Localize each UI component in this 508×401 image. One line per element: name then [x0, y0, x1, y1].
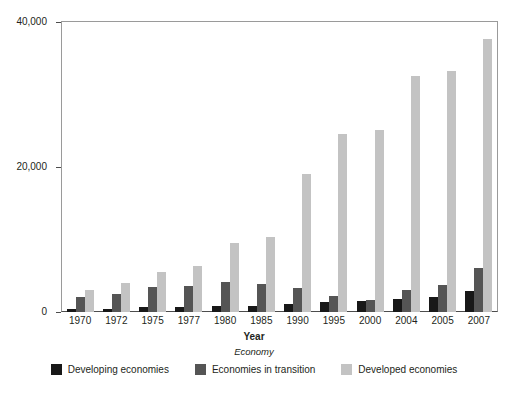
- bar-transition: [438, 285, 447, 312]
- x-axis-tick-label: 1972: [98, 315, 134, 329]
- bar-developing: [465, 291, 474, 312]
- bar-group: [425, 22, 461, 312]
- x-axis-tick-label: 1990: [280, 315, 316, 329]
- bar-transition: [293, 288, 302, 312]
- bar-developed: [302, 174, 311, 312]
- y-axis-tick-mark: [56, 167, 61, 168]
- bar-developed: [121, 283, 130, 312]
- bar-developed: [85, 290, 94, 312]
- legend-item-label: Developed economies: [358, 364, 457, 375]
- bar-transition: [474, 268, 483, 312]
- bar-developing: [67, 309, 76, 312]
- x-axis-tick-label: 1970: [62, 315, 98, 329]
- y-axis-tick-label: 0: [41, 307, 47, 317]
- bar-transition: [402, 290, 411, 312]
- legend: Developing economiesEconomies in transit…: [0, 364, 508, 375]
- legend-item-label: Economies in transition: [212, 364, 315, 375]
- x-axis-tick-label: 1975: [135, 315, 171, 329]
- x-axis-tick-labels: 1970197219751977198019851990199520002004…: [62, 315, 497, 329]
- bar-developed: [266, 237, 275, 312]
- legend-item-developed[interactable]: Developed economies: [341, 364, 457, 375]
- bar-developing: [429, 297, 438, 312]
- bar-developing: [248, 306, 257, 312]
- bar-transition: [329, 296, 338, 312]
- bar-developed: [230, 243, 239, 312]
- bar-developed: [447, 71, 456, 312]
- bar-group: [316, 22, 352, 312]
- bar-transition: [76, 297, 85, 312]
- x-axis-tick-label: 2007: [461, 315, 497, 329]
- x-axis-tick-label: 1995: [316, 315, 352, 329]
- legend-swatch-icon: [51, 364, 62, 375]
- bar-developed: [411, 76, 420, 312]
- legend-swatch-icon: [195, 364, 206, 375]
- bar-group: [62, 22, 98, 312]
- bar-group: [207, 22, 243, 312]
- bar-developed: [483, 39, 492, 312]
- legend-item-developing[interactable]: Developing economies: [51, 364, 169, 375]
- bar-developing: [175, 307, 184, 312]
- bar-transition: [221, 282, 230, 312]
- legend-swatch-icon: [341, 364, 352, 375]
- x-axis-tick-label: 1985: [243, 315, 279, 329]
- bar-group: [280, 22, 316, 312]
- y-axis-tick-label: 40,000: [16, 17, 47, 27]
- bar-group: [171, 22, 207, 312]
- bar-developing: [320, 302, 329, 312]
- bar-transition: [184, 286, 193, 312]
- bar-developing: [357, 301, 366, 312]
- x-axis-tick-label: 2005: [425, 315, 461, 329]
- bar-developing: [212, 306, 221, 312]
- legend-item-transition[interactable]: Economies in transition: [195, 364, 315, 375]
- bar-group: [243, 22, 279, 312]
- bar-transition: [366, 300, 375, 312]
- x-axis-tick-label: 1977: [171, 315, 207, 329]
- y-axis-tick-label: 20,000: [16, 162, 47, 172]
- bar-chart: 40,00020,0000 19701972197519771980198519…: [0, 0, 508, 401]
- bar-group: [135, 22, 171, 312]
- bar-developing: [284, 304, 293, 312]
- bar-transition: [112, 294, 121, 312]
- bar-developing: [103, 309, 112, 312]
- bar-group: [98, 22, 134, 312]
- bar-transition: [257, 284, 266, 312]
- bar-developed: [193, 266, 202, 312]
- bar-group: [461, 22, 497, 312]
- bar-group: [352, 22, 388, 312]
- legend-title: Economy: [0, 346, 508, 357]
- bar-developed: [375, 130, 384, 312]
- bar-developing: [139, 307, 148, 312]
- x-axis-tick-label: 2004: [388, 315, 424, 329]
- x-axis-tick-label: 2000: [352, 315, 388, 329]
- bar-group: [388, 22, 424, 312]
- legend-item-label: Developing economies: [68, 364, 169, 375]
- bar-developed: [338, 134, 347, 312]
- bar-transition: [148, 287, 157, 312]
- x-axis-tick-label: 1980: [207, 315, 243, 329]
- plot-area: [62, 22, 497, 312]
- y-axis-tick-mark: [56, 22, 61, 23]
- y-axis-tick-mark: [56, 312, 61, 313]
- bar-developing: [393, 299, 402, 312]
- bar-developed: [157, 272, 166, 312]
- x-axis-title: Year: [0, 331, 508, 342]
